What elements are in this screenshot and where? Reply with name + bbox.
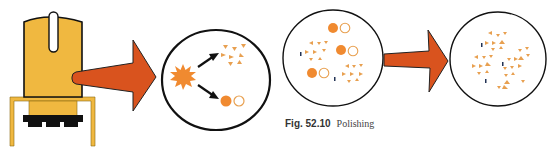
process-circle: [162, 30, 270, 130]
device-plate: [23, 115, 83, 122]
device-slot: [49, 12, 58, 52]
device-neck: [29, 101, 77, 117]
arrow-2-icon: [384, 30, 448, 92]
figure-title: Polishing: [337, 118, 375, 129]
polishing-diagram: [0, 0, 552, 155]
final-circle: [450, 12, 546, 106]
figure-caption: Fig. 52.10Polishing: [285, 118, 374, 129]
mid-stage-circle: [283, 10, 383, 106]
figure-number: Fig. 52.10: [285, 118, 331, 129]
